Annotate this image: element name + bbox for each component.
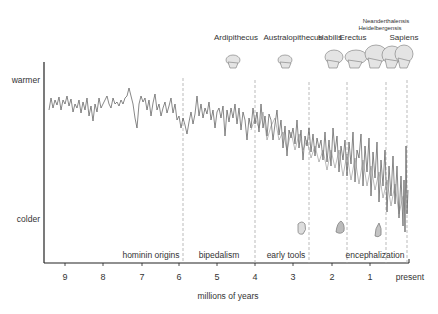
species-label-habilis: Habilis bbox=[318, 33, 342, 42]
skull-habilis-icon bbox=[325, 50, 343, 68]
skull-sapiens-icon bbox=[395, 45, 413, 68]
species-label-erectus: Erectus bbox=[339, 33, 366, 42]
x-tick-label: 7 bbox=[139, 272, 144, 282]
x-tick-label: 6 bbox=[176, 272, 181, 282]
skull-australopithecus-icon bbox=[278, 55, 292, 68]
phase-boundaries bbox=[183, 78, 407, 263]
species-label-ardipithecus: Ardipithecus bbox=[214, 33, 258, 42]
x-tick-labels: 9 8 7 6 5 4 3 2 1 present bbox=[62, 272, 424, 282]
y-label-colder: colder bbox=[17, 214, 40, 224]
x-tick-label: 5 bbox=[214, 272, 219, 282]
phase-label-bipedalism: bipedalism bbox=[199, 250, 240, 260]
phase-labels: hominin origins bipedalism early tools e… bbox=[122, 250, 404, 260]
acheulean-tool-icon bbox=[336, 221, 344, 233]
x-axis-title: millions of years bbox=[198, 291, 259, 301]
y-label-warmer: warmer bbox=[11, 75, 41, 85]
species-labels: Ardipithecus Australopithecus Habilis Er… bbox=[214, 18, 418, 42]
species-label-australopithecus: Australopithecus bbox=[263, 33, 322, 42]
skull-icons bbox=[226, 45, 413, 68]
species-label-neanderthalensis: Neanderthalensis bbox=[363, 18, 410, 24]
levallois-tool-icon bbox=[375, 223, 381, 237]
skull-erectus-icon bbox=[345, 50, 367, 68]
phase-label-early-tools: early tools bbox=[267, 250, 306, 260]
x-tick-label: 3 bbox=[290, 272, 295, 282]
chart-svg: warmer colder bbox=[0, 0, 438, 314]
x-tick-label: 9 bbox=[62, 272, 67, 282]
stone-tool-icons bbox=[298, 221, 381, 237]
x-tick-label: 1 bbox=[367, 272, 372, 282]
phase-label-hominin-origins: hominin origins bbox=[122, 250, 179, 260]
species-label-heidelbergensis: Heidelbergensis bbox=[358, 25, 401, 31]
climate-hominin-chart: warmer colder bbox=[0, 0, 438, 314]
skull-ardipithecus-icon bbox=[226, 55, 240, 68]
x-tick-label: 8 bbox=[100, 272, 105, 282]
x-tick-label: 4 bbox=[252, 272, 257, 282]
species-label-sapiens: Sapiens bbox=[390, 33, 419, 42]
phase-label-encephalization: encephalization bbox=[345, 250, 404, 260]
climate-series-line bbox=[49, 88, 408, 232]
oldowan-tool-icon bbox=[298, 222, 306, 234]
climate-series-shadow bbox=[251, 112, 403, 214]
x-tick-label-present: present bbox=[396, 272, 425, 282]
x-tick-label: 2 bbox=[329, 272, 334, 282]
